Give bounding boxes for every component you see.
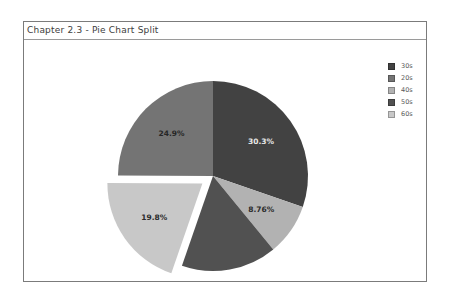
pie-slice-label-60s: 19.8% — [141, 213, 168, 222]
legend-label: 50s — [401, 99, 413, 106]
legend-label: 30s — [401, 63, 413, 70]
legend-label: 20s — [401, 75, 413, 82]
plot-area: 30.3%8.76%19.8%24.9% 30s20s40s50s60s — [24, 40, 426, 281]
legend-swatch-20s — [388, 75, 395, 82]
legend-item-40s: 40s — [388, 84, 413, 96]
chart-panel: Chapter 2.3 - Pie Chart Split 30.3%8.76%… — [23, 21, 427, 282]
legend: 30s20s40s50s60s — [388, 60, 413, 120]
chart-header: Chapter 2.3 - Pie Chart Split — [24, 22, 426, 40]
pie-slice-label-30s: 30.3% — [248, 137, 275, 146]
legend-item-60s: 60s — [388, 108, 413, 120]
pie-chart: 30.3%8.76%19.8%24.9% — [24, 40, 428, 281]
legend-item-20s: 20s — [388, 72, 413, 84]
page: Chapter 2.3 - Pie Chart Split 30.3%8.76%… — [0, 0, 449, 299]
pie-slice-label-40s: 8.76% — [248, 205, 275, 214]
legend-item-30s: 30s — [388, 60, 413, 72]
pie-slice-label-20s: 24.9% — [158, 129, 185, 138]
chart-title: Chapter 2.3 - Pie Chart Split — [27, 25, 159, 35]
legend-label: 40s — [401, 87, 413, 94]
legend-swatch-30s — [388, 63, 395, 70]
legend-item-50s: 50s — [388, 96, 413, 108]
legend-swatch-50s — [388, 99, 395, 106]
legend-label: 60s — [401, 111, 413, 118]
legend-swatch-40s — [388, 87, 395, 94]
legend-swatch-60s — [388, 111, 395, 118]
